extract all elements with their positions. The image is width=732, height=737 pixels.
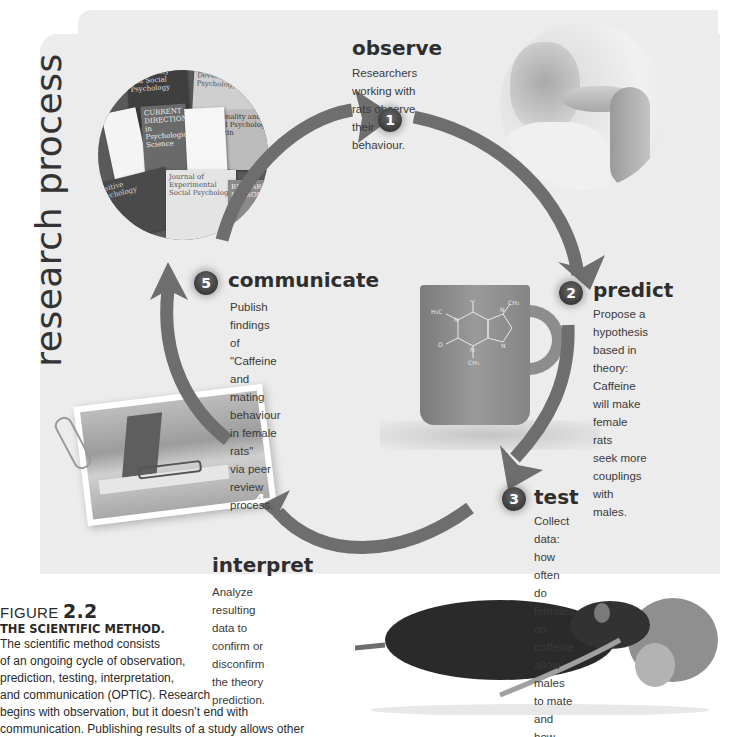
step-number-badge: 5: [194, 271, 218, 295]
step-description: Propose a hypothesis based in theory: Ca…: [593, 305, 648, 521]
figure-text: The scientific method consists of an ong…: [0, 636, 460, 737]
step-number-badge: 3: [502, 487, 526, 511]
arrow-interpret-to-communicate: [167, 290, 228, 440]
step-number-badge: 2: [559, 281, 583, 305]
arrow-communicate-to-observe: [222, 110, 352, 240]
arrow-predict-to-test: [515, 325, 568, 458]
step-title: interpret: [212, 553, 313, 577]
step-description: Publish findings of "Caffeine and mating…: [230, 298, 281, 514]
arrow-observe-to-predict: [414, 117, 578, 275]
step-title: test: [534, 485, 579, 509]
step-description: Collect data: how often do females on ca…: [534, 512, 574, 737]
step-title: observe: [352, 36, 442, 60]
figure-label: FIGURE 2.2: [0, 600, 460, 622]
figure-caption: FIGURE 2.2 THE SCIENTIFIC METHOD. The sc…: [0, 600, 460, 737]
step-title: predict: [593, 278, 673, 302]
arrow-test-to-interpret: [278, 508, 470, 548]
figure-heading: THE SCIENTIFIC METHOD.: [0, 622, 460, 636]
step-title: communicate: [228, 268, 379, 292]
step-number-badge: 1: [378, 108, 402, 132]
